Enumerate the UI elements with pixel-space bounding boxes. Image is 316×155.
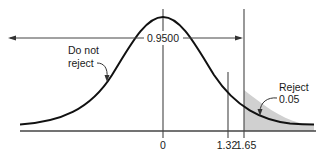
tick-label-1-65: 1.65 — [236, 139, 257, 151]
do-not-reject-label-line2: reject — [68, 57, 94, 69]
normal-curve-diagram: 0.9500 Do not reject Reject 0.05 0 1.32 … — [0, 0, 316, 155]
tick-label-1-32: 1.32 — [217, 139, 238, 151]
arrow-left-head-icon — [8, 36, 16, 41]
arrow-right-head-icon — [235, 36, 243, 41]
reject-label-line1: Reject — [279, 81, 309, 93]
do-not-reject-label-line1: Do not — [68, 44, 99, 56]
tick-label-0: 0 — [160, 139, 166, 151]
reject-label-line2: 0.05 — [279, 93, 300, 105]
acceptance-probability-label: 0.9500 — [147, 32, 179, 44]
